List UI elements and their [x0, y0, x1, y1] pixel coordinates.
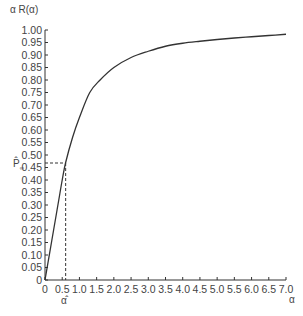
- x-tick-label: 6.0: [244, 283, 259, 295]
- y-tick-label: 0.95: [22, 36, 43, 48]
- y-tick-label: 0.25: [22, 211, 43, 223]
- x-tick-label: 2.0: [107, 283, 122, 295]
- x-tick-label: 6.5: [261, 283, 276, 295]
- y-tick-label: 0.20: [22, 224, 43, 236]
- x-tick-label: 4.5: [193, 283, 208, 295]
- alpha-hat-label: α̂: [61, 295, 69, 306]
- chart: 00.050.100.150.200.250.300.350.400.450.5…: [0, 0, 303, 316]
- y-tick-label: 1.00: [22, 24, 43, 36]
- y-tick-label: 0.50: [22, 149, 43, 161]
- y-tick-label: 0.75: [22, 86, 43, 98]
- x-tick-label: 0.5: [55, 283, 70, 295]
- y-axis-ticks: 00.050.100.150.200.250.300.350.400.450.5…: [22, 24, 48, 286]
- y-tick-label: 0.35: [22, 186, 43, 198]
- y-tick-label: 0.65: [22, 111, 43, 123]
- x-tick-label: 3.5: [158, 283, 173, 295]
- x-tick-label: 1.5: [89, 283, 104, 295]
- x-tick-label: 3.0: [141, 283, 156, 295]
- y-tick-label: 0.70: [22, 99, 43, 111]
- x-tick-label: 2.5: [124, 283, 139, 295]
- y-tick-label: 0.55: [22, 136, 43, 148]
- x-tick-label: 1.0: [72, 283, 87, 295]
- y-tick-label: 0.45: [22, 161, 43, 173]
- x-tick-label: 0: [42, 283, 48, 295]
- y-tick-label: 0.40: [22, 174, 43, 186]
- y-tick-label: 0.60: [22, 124, 43, 136]
- x-axis-title: α: [289, 294, 295, 305]
- y-tick-label: 0.05: [22, 261, 43, 273]
- x-tick-label: 4.0: [175, 283, 190, 295]
- y-tick-label: 0.90: [22, 49, 43, 61]
- y-axis-title: α R(α): [10, 4, 38, 15]
- y-tick-label: 0.15: [22, 236, 43, 248]
- y-tick-label: 0.85: [22, 61, 43, 73]
- y-tick-label: 0.10: [22, 249, 43, 261]
- x-tick-label: 5.0: [210, 283, 225, 295]
- x-tick-label: 5.5: [227, 283, 242, 295]
- r-alpha-curve: [45, 34, 286, 280]
- y-tick-label: 0.30: [22, 199, 43, 211]
- y-tick-label: 0.80: [22, 74, 43, 86]
